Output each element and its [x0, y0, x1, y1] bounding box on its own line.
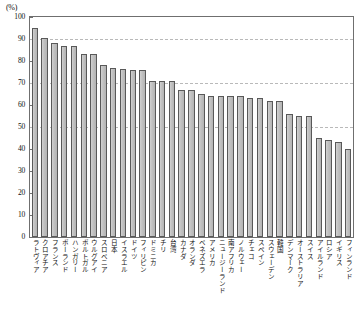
- bar: [178, 90, 184, 237]
- x-tick-label: スペイン: [256, 239, 263, 266]
- bar: [100, 65, 106, 237]
- y-tick-label: 90: [18, 35, 25, 43]
- bar: [227, 96, 233, 237]
- bar: [51, 43, 57, 237]
- y-tick-label: 0: [21, 233, 25, 241]
- bar: [286, 114, 292, 237]
- bar: [32, 28, 38, 237]
- bar: [120, 69, 126, 237]
- bar: [159, 81, 165, 237]
- bar: [335, 142, 341, 237]
- y-tick-label: 70: [18, 79, 25, 87]
- plot-area: [29, 16, 354, 238]
- bar: [169, 81, 175, 237]
- x-tick-label: 台湾: [168, 239, 175, 253]
- x-tick-label: 日本: [109, 239, 116, 253]
- x-tick-label: 南アフリカ: [226, 239, 233, 273]
- x-tick-label: スイス: [305, 239, 312, 259]
- bar: [257, 98, 263, 237]
- bar: [139, 70, 145, 237]
- bar: [208, 96, 214, 237]
- x-tick-label: チリ: [158, 239, 165, 253]
- y-tick-label: 40: [18, 145, 25, 153]
- x-tick-label: ポルトガル: [79, 239, 86, 273]
- bar: [81, 54, 87, 237]
- y-tick-label: 50: [18, 123, 25, 131]
- y-tick-label: 100: [14, 13, 25, 21]
- bar: [90, 54, 96, 237]
- x-tick-label: イスラエル: [119, 239, 126, 273]
- bar: [267, 101, 273, 237]
- bar: [110, 68, 116, 237]
- x-tick-label: アメリカ: [207, 239, 214, 266]
- x-tick-label: オーストラリア: [295, 239, 302, 287]
- x-tick-label: フィンランド: [344, 239, 351, 280]
- y-axis-tick-labels: 0102030405060708090100: [0, 16, 27, 238]
- bar-chart: (%) 0102030405060708090100 ラトヴィアクロアチアフラン…: [0, 0, 363, 316]
- x-tick-label: ロシア: [324, 239, 331, 259]
- x-tick-label: ドミニカ: [148, 239, 155, 266]
- bar: [247, 98, 253, 237]
- y-tick-label: 20: [18, 189, 25, 197]
- x-tick-label: カナダ: [177, 239, 184, 259]
- bar: [325, 140, 331, 237]
- bar: [149, 81, 155, 237]
- x-tick-label: クロアチア: [40, 239, 47, 273]
- bar: [218, 96, 224, 237]
- bar: [306, 116, 312, 237]
- x-tick-label: 韓国: [275, 239, 282, 253]
- x-tick-label: アイルランド: [314, 239, 321, 280]
- bar: [41, 38, 47, 237]
- y-tick-label: 60: [18, 101, 25, 109]
- y-tick-label: 30: [18, 167, 25, 175]
- bar: [345, 149, 351, 237]
- y-tick-label: 80: [18, 57, 25, 65]
- x-axis-category-labels: ラトヴィアクロアチアフランスポーランドハンガリーポルトガルウルグアイスロベニア日…: [29, 239, 354, 316]
- x-tick-label: ウルグアイ: [89, 239, 96, 273]
- bar: [71, 46, 77, 237]
- x-tick-label: ドイツ: [128, 239, 135, 259]
- y-tick-mark: [30, 237, 33, 238]
- x-tick-label: スウェーデン: [265, 239, 272, 280]
- bar: [296, 116, 302, 237]
- bar: [316, 138, 322, 237]
- x-tick-label: スロベニア: [99, 239, 106, 273]
- x-tick-label: ニュージーランド: [216, 239, 223, 293]
- x-tick-label: フランス: [50, 239, 57, 266]
- y-tick-label: 10: [18, 211, 25, 219]
- bar: [198, 94, 204, 237]
- x-tick-label: ポーランド: [60, 239, 67, 273]
- x-tick-label: デンマーク: [285, 239, 292, 273]
- bar: [276, 101, 282, 237]
- bar: [130, 70, 136, 237]
- bar: [61, 46, 67, 237]
- x-tick-label: フィリピン: [138, 239, 145, 273]
- x-tick-label: ラトヴィア: [30, 239, 37, 273]
- x-tick-label: ベネズエラ: [197, 239, 204, 273]
- x-tick-label: チェコ: [246, 239, 253, 259]
- bars-container: [30, 17, 353, 237]
- x-tick-label: オランダ: [187, 239, 194, 266]
- bar: [188, 90, 194, 237]
- x-tick-label: ハンガリー: [70, 239, 77, 273]
- x-tick-label: ノルウェー: [236, 239, 243, 273]
- y-axis-unit-label: (%): [6, 3, 17, 12]
- x-tick-label: イギリス: [334, 239, 341, 266]
- bar: [237, 96, 243, 237]
